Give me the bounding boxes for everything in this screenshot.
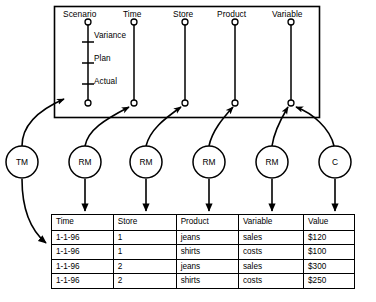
- cell-product: jeans: [176, 230, 238, 245]
- connector-rm2-to-store: [146, 107, 181, 146]
- cell-time: 1-1-96: [52, 245, 114, 260]
- cell-variable: sales: [238, 230, 303, 245]
- node-rm3-label: RM: [193, 157, 225, 167]
- cell-store: 1: [113, 230, 176, 245]
- dimension-label-product: Product: [217, 10, 246, 19]
- cell-time: 1-1-96: [52, 259, 114, 274]
- cell-store: 2: [113, 259, 176, 274]
- cell-time: 1-1-96: [52, 230, 114, 245]
- cell-value: $120: [304, 230, 355, 245]
- table-header-product: Product: [176, 215, 238, 231]
- table-header-store: Store: [113, 215, 176, 231]
- connector-rm1-to-time: [85, 107, 129, 146]
- cell-variable: costs: [238, 245, 303, 260]
- node-rm2-label: RM: [130, 157, 162, 167]
- dimension-axis-scenario: [82, 19, 94, 106]
- connector-rm4-to-variable: [272, 107, 288, 146]
- table-row: 1-1-96 2 shirts costs $250: [52, 274, 355, 289]
- connector-tm-to-scenario: [22, 99, 64, 146]
- dimension-axis-product: [232, 19, 238, 106]
- diagram-canvas: Scenario Time Store Product Variable Var…: [0, 0, 376, 302]
- table-row: 1-1-96 2 jeans sales $300: [52, 259, 355, 274]
- dimension-axis-store: [182, 19, 188, 106]
- scenario-member-actual: Actual: [94, 77, 117, 86]
- connector-c-to-variable: [296, 107, 334, 146]
- cell-time: 1-1-96: [52, 274, 114, 289]
- table-header-variable: Variable: [238, 215, 303, 231]
- node-rm4-label: RM: [256, 157, 288, 167]
- table-row: 1-1-96 1 jeans sales $120: [52, 230, 355, 245]
- cell-product: shirts: [176, 274, 238, 289]
- cell-store: 2: [113, 274, 176, 289]
- dimension-label-scenario: Scenario: [63, 10, 96, 19]
- dimension-label-store: Store: [173, 10, 193, 19]
- cell-variable: sales: [238, 259, 303, 274]
- table-header-time: Time: [52, 215, 114, 231]
- connector-rm3-to-product: [209, 107, 233, 146]
- node-rm1-label: RM: [69, 157, 101, 167]
- node-c-label: C: [319, 157, 351, 167]
- cell-value: $300: [304, 259, 355, 274]
- dimension-label-time: Time: [123, 10, 142, 19]
- cell-product: jeans: [176, 259, 238, 274]
- table-header-value: Value: [304, 215, 355, 231]
- table-row: 1-1-96 1 shirts costs $100: [52, 245, 355, 260]
- cell-value: $250: [304, 274, 355, 289]
- scenario-member-variance: Variance: [94, 31, 126, 40]
- cell-product: shirts: [176, 245, 238, 260]
- dimension-axis-variable: [288, 19, 294, 106]
- node-tm-label: TM: [6, 157, 38, 167]
- cell-value: $100: [304, 245, 355, 260]
- cell-variable: costs: [238, 274, 303, 289]
- dimension-axis-time: [131, 19, 137, 106]
- cell-store: 1: [113, 245, 176, 260]
- table-header-row: Time Store Product Variable Value: [52, 215, 355, 231]
- connector-tm-to-table: [22, 179, 46, 243]
- dimension-label-variable: Variable: [272, 10, 303, 19]
- fact-table: Time Store Product Variable Value 1-1-96…: [51, 214, 355, 289]
- scenario-member-plan: Plan: [94, 54, 111, 63]
